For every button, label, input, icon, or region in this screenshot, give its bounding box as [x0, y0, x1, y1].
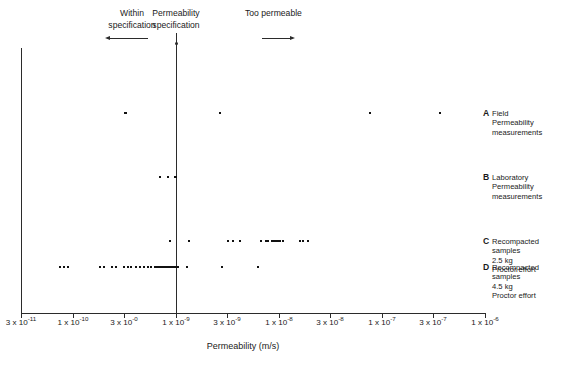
data-point-d — [221, 266, 223, 268]
data-point-d — [130, 266, 132, 268]
x-axis-tick-label: 3 x 10-8 — [316, 317, 344, 328]
data-point-d — [135, 266, 137, 268]
data-point-d — [111, 266, 113, 268]
data-point-a — [219, 112, 221, 114]
data-point-d — [99, 266, 101, 268]
annotation-spec-line2: specification — [152, 20, 199, 30]
specification-pointer-tick — [176, 33, 177, 44]
data-point-d — [177, 266, 179, 268]
too-permeable-arrow-head-right-icon — [290, 36, 295, 40]
data-point-c — [227, 240, 229, 242]
series-label-b: BLaboratoryPermeabilitymeasurements — [492, 173, 542, 201]
x-axis-tick-label: 3 x 10-0 — [110, 317, 138, 328]
series-label-line: samples — [492, 246, 539, 255]
data-point-c — [169, 240, 171, 242]
data-point-c — [188, 240, 190, 242]
x-axis-line — [21, 313, 486, 314]
x-axis-tick-label: 1 x 10-7 — [368, 317, 396, 328]
data-point-c — [307, 240, 309, 242]
too-permeable-arrow-shaft — [262, 38, 292, 39]
series-key-a: A — [483, 109, 489, 118]
x-axis-tick-label: 1 x 10-6 — [471, 317, 499, 328]
x-axis-tick-label: 1 x 10-10 — [57, 317, 88, 328]
data-point-d — [186, 266, 188, 268]
series-label-line: Recompacted — [492, 237, 539, 246]
series-label-line: Laboratory — [492, 173, 542, 182]
data-point-b — [167, 176, 169, 178]
x-axis-tick-label: 1 x 10-9 — [162, 317, 190, 328]
data-point-d — [123, 266, 125, 268]
x-axis-tick-label: 3 x 10-11 — [6, 317, 37, 328]
data-point-d — [257, 266, 259, 268]
annotation-within-line1: Within — [120, 8, 144, 18]
series-label-line: Recompacted — [492, 263, 539, 272]
annotation-permeability-specification: Permeability specification — [143, 8, 209, 31]
data-point-b — [175, 176, 177, 178]
data-point-c — [282, 240, 284, 242]
series-label-line: measurements — [492, 192, 542, 201]
x-axis-tick-label: 1 x 10-8 — [265, 317, 293, 328]
data-point-c — [302, 240, 304, 242]
permeability-dot-plot: Within specification Permeability specif… — [0, 0, 568, 370]
data-point-d — [150, 266, 152, 268]
data-point-d — [103, 266, 105, 268]
data-point-d — [139, 266, 141, 268]
data-point-c — [267, 240, 269, 242]
series-key-b: B — [483, 173, 489, 182]
within-specification-arrow-shaft — [110, 38, 148, 39]
annotation-too-permeable-line1: Too permeable — [245, 8, 302, 18]
series-label-d: DRecompactedsamples4.5 kgProctor effort — [492, 263, 539, 301]
series-label-line: Permeability — [492, 182, 542, 191]
x-axis-tick-label: 3 x 10-7 — [419, 317, 447, 328]
data-point-d — [59, 266, 61, 268]
data-point-d — [115, 266, 117, 268]
data-point-d — [63, 266, 65, 268]
series-label-line: samples — [492, 272, 539, 281]
series-key-c: C — [483, 237, 489, 246]
annotation-too-permeable: Too permeable — [245, 8, 335, 20]
annotation-spec-line1: Permeability — [152, 8, 199, 18]
data-point-c — [260, 240, 262, 242]
data-point-a — [439, 112, 441, 114]
data-point-a — [125, 112, 127, 114]
data-point-a — [369, 112, 371, 114]
within-specification-arrow-head-left-icon — [105, 36, 110, 40]
permeability-specification-reference-line — [176, 44, 177, 313]
data-point-c — [232, 240, 234, 242]
series-label-line: Proctor effort — [492, 291, 539, 300]
data-point-d — [67, 266, 69, 268]
series-label-line: Permeability — [492, 118, 542, 127]
x-axis-tick-label: 3 x 10-9 — [213, 317, 241, 328]
data-point-c — [239, 240, 241, 242]
series-label-line: 4.5 kg — [492, 282, 539, 291]
series-label-line: measurements — [492, 128, 542, 137]
data-point-b — [159, 176, 161, 178]
y-axis-line — [21, 48, 22, 313]
data-point-d — [143, 266, 145, 268]
series-key-d: D — [483, 263, 489, 272]
series-label-line: Field — [492, 109, 542, 118]
x-axis-title: Permeability (m/s) — [0, 341, 486, 351]
series-label-a: AFieldPermeabilitymeasurements — [492, 109, 542, 137]
